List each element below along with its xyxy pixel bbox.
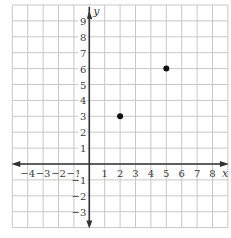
data-point bbox=[163, 66, 169, 72]
x-tick-label: 3 bbox=[132, 168, 138, 179]
y-tick-label: 2 bbox=[80, 127, 86, 138]
x-tick-label: 6 bbox=[179, 168, 185, 179]
x-tick-label: −4 bbox=[20, 168, 35, 179]
data-point bbox=[117, 113, 123, 119]
y-tick-label: 1 bbox=[80, 143, 86, 154]
y-tick-label: 3 bbox=[80, 111, 86, 122]
y-axis-label: y bbox=[92, 5, 100, 18]
x-tick-label: 5 bbox=[163, 168, 169, 179]
x-tick-label: 2 bbox=[117, 168, 123, 179]
y-tick-label: 5 bbox=[80, 80, 86, 91]
x-axis-label: x bbox=[222, 167, 229, 180]
y-tick-label: −3 bbox=[72, 207, 87, 218]
y-tick-label: 6 bbox=[80, 64, 86, 75]
x-tick-label: 7 bbox=[194, 168, 200, 179]
y-tick-label: 7 bbox=[80, 48, 86, 59]
y-tick-label: −1 bbox=[72, 175, 87, 186]
x-tick-label: 4 bbox=[148, 168, 154, 179]
y-tick-label: 4 bbox=[80, 95, 86, 106]
coordinate-plane: −4−3−2−112345678987654321−1−2−3 x y bbox=[0, 0, 231, 238]
x-tick-label: 8 bbox=[209, 168, 215, 179]
y-tick-label: −2 bbox=[72, 191, 87, 202]
x-tick-label: −3 bbox=[36, 168, 51, 179]
x-tick-label: 1 bbox=[102, 168, 108, 179]
y-tick-label: 8 bbox=[80, 32, 86, 43]
y-tick-label: 9 bbox=[80, 16, 86, 27]
x-tick-label: −2 bbox=[51, 168, 66, 179]
data-points bbox=[117, 66, 169, 120]
